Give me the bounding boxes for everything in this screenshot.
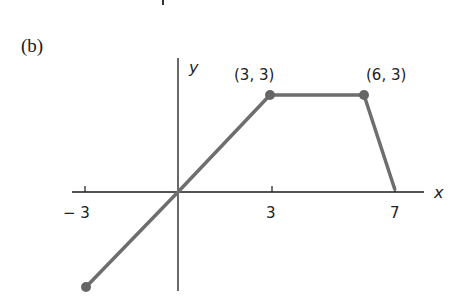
point-neg3-neg3 bbox=[81, 282, 91, 292]
point-3-3 bbox=[265, 90, 275, 100]
cropped-fragment bbox=[162, 0, 164, 5]
function-graph bbox=[86, 95, 395, 287]
point-6-3 bbox=[359, 90, 369, 100]
x-axis-label: x bbox=[433, 183, 444, 202]
chart-canvas: − 3 3 7 x y (3, 3) (6, 3) bbox=[0, 0, 466, 303]
annotation-3-3: (3, 3) bbox=[234, 66, 274, 84]
annotation-6-3: (6, 3) bbox=[366, 66, 406, 84]
y-axis-label: y bbox=[188, 58, 199, 77]
tick-label-7: 7 bbox=[390, 204, 400, 222]
tick-label-neg3: − 3 bbox=[63, 204, 90, 222]
tick-label-3: 3 bbox=[266, 204, 276, 222]
